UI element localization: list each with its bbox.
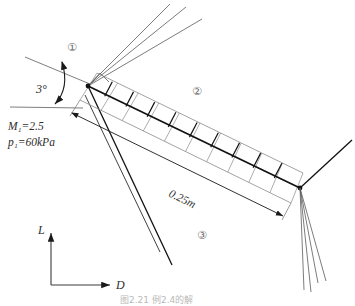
upstream-upper-line [25,57,90,84]
panel-divider [228,143,242,172]
plate-node-tick [274,163,282,178]
leading-edge-shock-line-2 [85,95,160,252]
static-pressure-label: p₁=60kPa [7,136,55,149]
te-expansion-ray-3 [300,188,318,283]
chord-length-label: 0.25m [167,187,198,210]
region-2-label: ② [192,85,202,98]
mach-number-label: M₁=2.5 [7,120,44,132]
figure-root: L D 3° M₁=2.5 p₁=60kPa 0.25m ① ② ③ 图2.21… [0,0,355,306]
upstream-flow-lines [10,57,90,108]
axis-label-drag: D [115,278,125,292]
angle-of-attack-arc [55,62,65,104]
plate-node-tick [190,123,198,138]
plate-node-tick [126,92,134,107]
panel-divider [207,133,221,162]
leading-edge-shock [85,86,172,265]
upstream-lower-line [10,107,83,108]
region-3-label: ③ [197,229,207,242]
flat-plate-flow-diagram: L D 3° M₁=2.5 p₁=60kPa 0.25m ① ② ③ 图2.21… [0,0,355,306]
trailing-edge-shock-line [300,140,352,188]
trailing-edge-expansion-fan [300,188,326,292]
leading-edge-shock-line [88,86,172,265]
te-expansion-ray-4 [300,188,326,281]
plate-node-tick [168,112,176,127]
trailing-edge-shock [300,140,352,188]
leading-edge-vertex [86,84,91,89]
leading-edge-expansion-fan [88,4,202,86]
region-1-label: ① [67,41,77,54]
coordinate-axes [51,233,110,285]
plate-node-tick [147,102,155,117]
angle-of-attack-label: 3° [35,82,47,96]
plate-centerline [86,82,303,191]
axis-label-lift: L [37,223,45,237]
chord-extension-right [282,203,291,220]
expansion-ray-2 [88,7,186,86]
plate-node-tick [253,153,261,168]
panel-divider [249,153,262,182]
angle-arc-path [55,62,65,104]
figure-caption: 图2.21 例2.4的解 [120,294,193,305]
